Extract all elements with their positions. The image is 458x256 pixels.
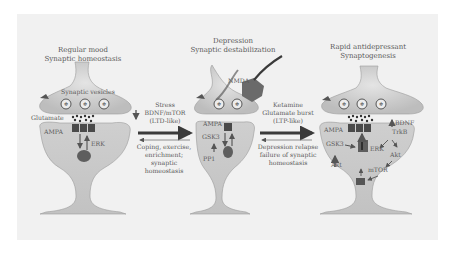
relapse-label: Depression relapse bbox=[256, 143, 320, 150]
postsynaptic-spine bbox=[190, 121, 255, 214]
ketamine-transition-arrows bbox=[260, 133, 312, 140]
ampa-receptor bbox=[224, 123, 232, 131]
svg-text:✲: ✲ bbox=[342, 101, 346, 107]
nmda-label: NMDA bbox=[228, 77, 249, 84]
depression-title-line2: Synaptic destabilization bbox=[188, 46, 278, 54]
regular-title-line1: Regular mood bbox=[48, 46, 118, 54]
svg-text:✲: ✲ bbox=[83, 101, 87, 107]
ampa-label-regular: AMPA bbox=[44, 128, 63, 135]
bdnf-mtor-label: BDNF/mTOR bbox=[140, 109, 190, 116]
gsk3-label-depression: GSK3 bbox=[202, 133, 220, 140]
svg-text:✲: ✲ bbox=[102, 101, 106, 107]
ampa-receptors bbox=[348, 124, 371, 132]
ampa-receptors bbox=[72, 124, 95, 132]
glutamate-burst-label: Glutamate burst bbox=[258, 109, 318, 116]
enrichment-label: enrichment; bbox=[134, 151, 194, 158]
coping-label: Coping, exercise, bbox=[134, 143, 194, 150]
homeostasis-label: homeostasis bbox=[134, 167, 194, 174]
ampa-label-depression: AMPA bbox=[203, 120, 222, 127]
nmda-axon bbox=[254, 56, 282, 80]
trkb-label: TrkB bbox=[392, 128, 407, 135]
regular-title-line2: Synaptic homeostasis bbox=[38, 55, 128, 63]
svg-text:✲: ✲ bbox=[64, 101, 68, 107]
bdnf-label: BDNF bbox=[395, 119, 414, 126]
erk-label-rapid: ERK bbox=[370, 145, 384, 152]
depression-title-line1: Depression bbox=[198, 37, 268, 45]
signaling-complex-icon bbox=[223, 146, 233, 158]
neck-complex-icon bbox=[356, 178, 365, 185]
homeostasis-label-2: homeostasis bbox=[256, 159, 320, 166]
synaptic-vesicles: ✲ ✲ ✲ bbox=[61, 99, 109, 109]
svg-text:✲: ✲ bbox=[360, 101, 364, 107]
ketamine-label: Ketamine bbox=[262, 101, 314, 108]
akt-label-left: Akt bbox=[331, 161, 342, 168]
svg-text:✲: ✲ bbox=[217, 101, 221, 107]
presynaptic-terminal bbox=[322, 66, 424, 114]
stress-label: Stress bbox=[140, 101, 190, 108]
failure-label: failure of synaptic bbox=[256, 151, 320, 158]
glutamate-label: Glutamate bbox=[31, 114, 64, 121]
signaling-complex-icon bbox=[358, 140, 368, 152]
rapid-title-line2: Synaptogenesis bbox=[328, 52, 408, 60]
synaptic-label: synaptic bbox=[134, 159, 194, 166]
rapid-title-line1: Rapid antidepressant bbox=[318, 43, 418, 51]
glutamate-molecules bbox=[348, 115, 373, 122]
akt-label-right: Akt bbox=[390, 151, 401, 158]
synaptic-vesicles: ✲ ✲ ✲ bbox=[339, 99, 386, 109]
mtor-label: mTOR bbox=[368, 166, 388, 173]
vesicles-label: Synaptic vesicles bbox=[58, 88, 118, 95]
ltd-like-label: (LTD-like) bbox=[140, 117, 190, 124]
erk-complex-icon bbox=[77, 150, 91, 162]
postsynaptic-spine bbox=[40, 122, 131, 214]
gsk3-label-rapid: GSK3 bbox=[326, 140, 344, 147]
ampa-label-rapid: AMPA bbox=[324, 126, 343, 133]
regular-synapse: ✲ ✲ ✲ bbox=[40, 62, 132, 214]
ltp-like-label: (LTP-like) bbox=[262, 117, 314, 124]
pp1-label: PP1 bbox=[203, 155, 215, 162]
svg-text:✲: ✲ bbox=[235, 101, 239, 107]
svg-text:✲: ✲ bbox=[379, 101, 383, 107]
erk-label-regular: ERK bbox=[91, 140, 105, 147]
